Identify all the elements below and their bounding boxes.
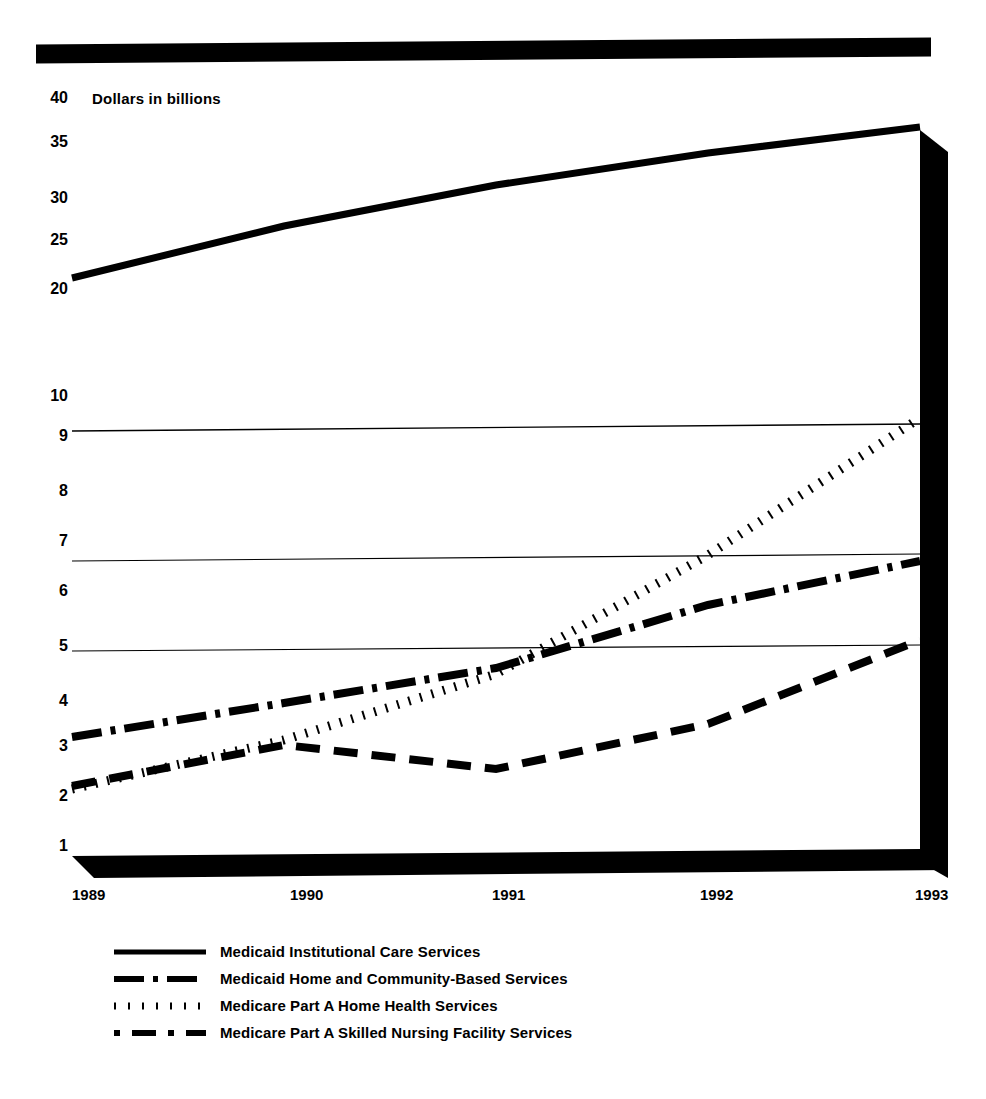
solid-line-key-icon (112, 945, 208, 959)
legend-item-medicare-snf: Medicare Part A Skilled Nursing Facility… (112, 1019, 732, 1046)
series-line-medicaid-institutional-care (72, 127, 920, 278)
legend-item-medicare-home-health: Medicare Part A Home Health Services (112, 992, 732, 1019)
plot-area (0, 0, 986, 1099)
gridline-7 (72, 554, 920, 561)
legend-label-medicare-snf: Medicare Part A Skilled Nursing Facility… (220, 1024, 572, 1041)
legend-label-medicaid-home-community: Medicaid Home and Community-Based Servic… (220, 970, 568, 987)
gridline-5 (72, 645, 920, 651)
series-line-medicaid-home-community (72, 561, 920, 737)
dotted-line-key-icon (112, 999, 208, 1013)
gridline-10 (72, 424, 920, 431)
axis-right-wall (920, 130, 948, 878)
chart-page: Dollars in billions 40 35 30 25 20 10 9 … (0, 0, 986, 1099)
series-line-medicare-home-health (72, 418, 920, 789)
legend-item-medicaid-home-community: Medicaid Home and Community-Based Servic… (112, 965, 732, 992)
dash-dot-line-key-icon (112, 972, 208, 986)
chart-legend: Medicaid Institutional Care Services Med… (112, 938, 732, 1046)
axis-baseline (72, 849, 948, 878)
dashed-line-key-icon (112, 1026, 208, 1040)
legend-label-medicaid-institutional-care: Medicaid Institutional Care Services (220, 943, 480, 960)
legend-item-medicaid-institutional-care: Medicaid Institutional Care Services (112, 938, 732, 965)
legend-label-medicare-home-health: Medicare Part A Home Health Services (220, 997, 498, 1014)
